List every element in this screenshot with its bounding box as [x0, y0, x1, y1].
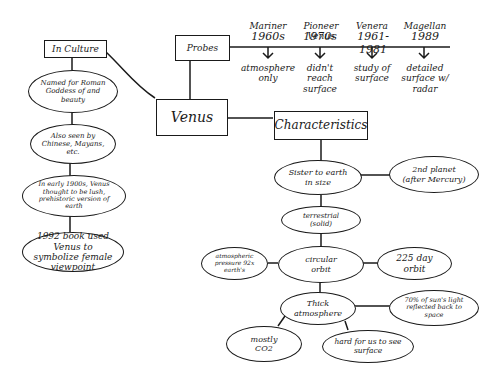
- char-second-planet: 2nd planet (after Mercury): [389, 156, 479, 193]
- characteristics-box: Characteristics: [274, 111, 368, 140]
- char-thick-atmosphere: Thick atmosphere: [280, 292, 356, 325]
- char-sister-earth: Sister to earth in size: [274, 160, 362, 195]
- char-mostly-co2: mostly CO2: [226, 326, 302, 362]
- in-culture-box: In Culture: [44, 40, 107, 58]
- char-225-day-orbit: 225 day orbit: [377, 247, 452, 280]
- probe-magellan-note: detailed surface w/ radar: [398, 63, 452, 94]
- culture-chinese-mayans: Also seen by Chinese, Mayans, etc.: [30, 124, 116, 164]
- probe-venera-date: 1961-1981: [345, 31, 401, 56]
- culture-roman-goddess: Named for Roman Goddess of and beauty: [28, 70, 118, 113]
- probes-box: Probes: [175, 35, 230, 61]
- char-sunlight-reflected: 70% of sun's light reflected back to spa…: [389, 290, 479, 326]
- probe-pioneer-date: 1970s: [295, 31, 345, 44]
- culture-early-1900s: In early 1900s, Venus thought to be lush…: [22, 175, 126, 217]
- probe-mariner-note: atmosphere only: [240, 63, 296, 84]
- char-terrestrial: terrestrial (solid): [281, 206, 361, 234]
- probe-magellan-date: 1989: [400, 31, 450, 44]
- probe-pioneer-note: didn't reach surface: [298, 63, 342, 94]
- char-atm-pressure: atmospheric pressure 92x earth's: [201, 247, 268, 280]
- culture-1992-book: 1992 book used Venus to symbolize female…: [22, 232, 124, 272]
- char-circular-orbit: circular orbit: [278, 246, 364, 283]
- venus-central-box: Venus: [156, 99, 228, 136]
- probe-mariner-date: 1960s: [243, 31, 293, 44]
- char-hard-to-see-surface: hard for us to see surface: [322, 330, 414, 363]
- probe-venera-note: study of surface: [350, 63, 394, 84]
